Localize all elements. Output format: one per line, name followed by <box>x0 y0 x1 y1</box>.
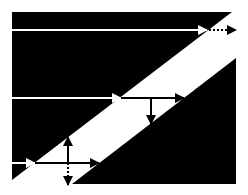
band-diagram <box>0 0 248 195</box>
